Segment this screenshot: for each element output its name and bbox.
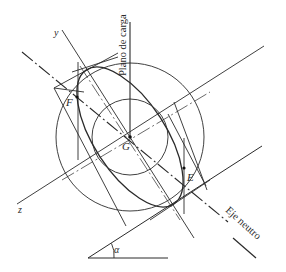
load-plane-label: Plano de carga <box>117 14 128 76</box>
diagram-canvas: Plano de carga Eje neutro y z G F E α <box>0 0 286 272</box>
z-axis-label: z <box>17 204 22 215</box>
principal-axis-dashdot <box>62 92 210 180</box>
point-e-marker <box>182 166 185 169</box>
neutral-axis-label: Eje neutro <box>224 204 264 241</box>
tangent-line-top-2 <box>72 57 118 72</box>
centroid-label: G <box>122 140 130 152</box>
y-axis <box>62 30 194 238</box>
point-e-label: E <box>186 171 194 183</box>
y-axis-label: y <box>53 27 59 38</box>
tangent-line-top-1 <box>54 53 118 88</box>
neutral-axis <box>22 52 228 222</box>
z-axis <box>17 46 264 204</box>
centroid-point <box>128 135 132 139</box>
angle-alpha-label: α <box>114 244 120 255</box>
point-f-marker <box>75 95 78 98</box>
point-f-label: F <box>65 96 73 108</box>
neutral-axis-label-underline <box>233 238 256 258</box>
inertia-ellipse-diagram: Plano de carga Eje neutro y z G F E α <box>0 0 286 272</box>
